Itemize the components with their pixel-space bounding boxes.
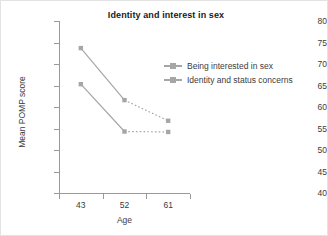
series-plot (1, 1, 328, 236)
data-point-marker (79, 46, 83, 50)
legend-item: Being interested in sex (164, 59, 324, 72)
legend-item-label: Being interested in sex (187, 61, 273, 71)
legend-item: Identity and status concerns (164, 73, 324, 86)
series-line-segment (125, 100, 169, 121)
legend-square-icon (170, 63, 176, 69)
series-line-segment (81, 84, 125, 131)
legend-marker-icon (164, 60, 182, 71)
series-line-segment (81, 48, 125, 100)
data-point-marker (79, 82, 83, 86)
legend-item-label: Identity and status concerns (187, 75, 293, 85)
legend-marker-icon (164, 74, 182, 85)
data-point-marker (122, 129, 126, 133)
data-point-marker (122, 98, 126, 102)
chart-figure: Identity and interest in sex 40455055606… (0, 0, 328, 236)
legend-square-icon (170, 77, 176, 83)
data-point-marker (166, 130, 170, 134)
chart-legend: Being interested in sex Identity and sta… (164, 59, 324, 87)
data-point-marker (166, 119, 170, 123)
